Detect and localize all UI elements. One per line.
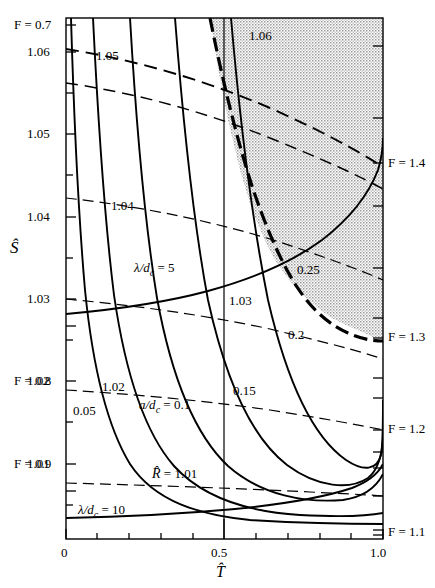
contour-figure: F = 0.7 F = 0.8 F = 0.9 1.06 1.05 1.04 1… (0, 0, 435, 588)
plot-svg (0, 0, 435, 588)
